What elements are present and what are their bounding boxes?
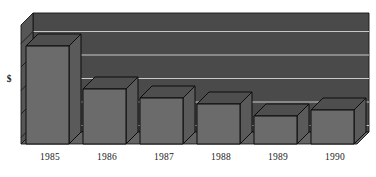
bar-front-face xyxy=(197,104,240,144)
bar-1989 xyxy=(254,104,309,144)
x-tick-label-1989: 1989 xyxy=(268,152,288,162)
bar-1987 xyxy=(140,86,195,144)
chart-canvas: $ 1985 1986 1987 1988 1989 1990 xyxy=(0,0,376,177)
bar-chart-figure: $ 1985 1986 1987 1988 1989 1990 xyxy=(0,0,376,177)
bar-side-face xyxy=(69,34,81,144)
bar-1988 xyxy=(197,92,252,144)
bar-front-face xyxy=(311,110,354,144)
bar-1990 xyxy=(311,98,366,144)
bar-1986 xyxy=(83,77,138,144)
bar-front-face xyxy=(83,89,126,144)
bar-front-face xyxy=(140,98,183,144)
bar-1985 xyxy=(26,34,81,144)
x-tick-label-1987: 1987 xyxy=(154,152,174,162)
x-tick-label-1985: 1985 xyxy=(40,152,60,162)
x-tick-label-1988: 1988 xyxy=(211,152,231,162)
x-tick-label-1986: 1986 xyxy=(97,152,117,162)
bar-front-face xyxy=(254,116,297,144)
y-axis-title: $ xyxy=(7,74,12,84)
bar-side-face xyxy=(126,77,138,144)
x-tick-label-1990: 1990 xyxy=(325,152,345,162)
bar-front-face xyxy=(26,46,69,144)
